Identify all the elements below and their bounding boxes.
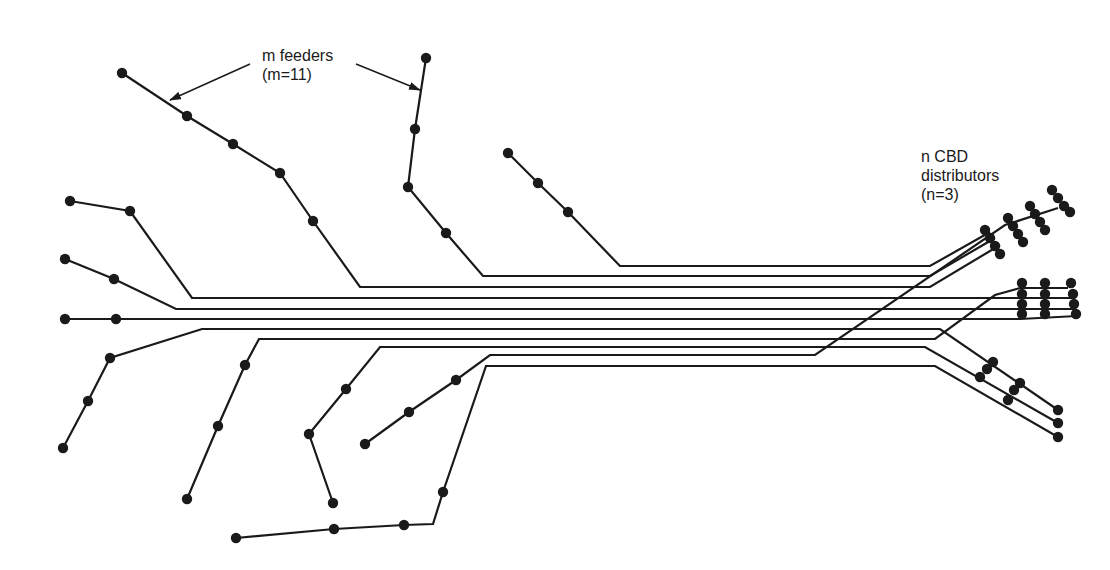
feeders-label: m feeders(m=11) bbox=[262, 46, 333, 84]
feeder-node bbox=[182, 494, 192, 504]
distributors-label-line1: n CBD bbox=[921, 148, 968, 165]
feeder-node bbox=[240, 360, 250, 370]
distributors-label-line2: distributors bbox=[921, 167, 999, 184]
feeder-node bbox=[228, 139, 238, 149]
distributor-nodes bbox=[975, 185, 1081, 442]
distributor-node-middle bbox=[1017, 289, 1027, 299]
feeder-node bbox=[308, 216, 318, 226]
distributor-node-middle bbox=[1017, 278, 1027, 288]
annotation-arrow-icon bbox=[170, 64, 250, 100]
feeder-node bbox=[421, 53, 431, 63]
annotation-arrow-icon bbox=[356, 64, 420, 90]
feeder-node bbox=[58, 443, 68, 453]
feeder-node bbox=[404, 407, 414, 417]
feeder-node bbox=[328, 498, 338, 508]
feeder-node bbox=[125, 206, 135, 216]
feeder-network-diagram bbox=[0, 0, 1110, 570]
distributor-node-upper bbox=[1018, 237, 1028, 247]
feeder-line-f1 bbox=[122, 73, 1000, 287]
feeder-node bbox=[410, 124, 420, 134]
feeder-node bbox=[111, 314, 121, 324]
feeder-line-f2 bbox=[408, 58, 995, 276]
distributor-node-upper bbox=[995, 249, 1005, 259]
feeder-node bbox=[441, 228, 451, 238]
feeder-lines bbox=[63, 58, 1077, 538]
feeders-label-line1: m feeders bbox=[262, 47, 333, 64]
feeder-node bbox=[563, 207, 573, 217]
feeder-node bbox=[231, 533, 241, 543]
distributor-node-middle bbox=[1017, 309, 1027, 319]
distributor-node-lower bbox=[982, 364, 992, 374]
distributor-node-middle bbox=[1069, 299, 1079, 309]
distributor-node-lower bbox=[1053, 432, 1063, 442]
feeder-node bbox=[105, 353, 115, 363]
feeder-node bbox=[109, 274, 119, 284]
feeder-node bbox=[329, 524, 339, 534]
feeder-node bbox=[304, 429, 314, 439]
distributor-node-upper bbox=[1065, 207, 1075, 217]
distributor-node-middle bbox=[1040, 309, 1050, 319]
feeder-node bbox=[451, 375, 461, 385]
feeder-node bbox=[341, 384, 351, 394]
feeder-line-f6 bbox=[65, 316, 1077, 319]
distributor-node-lower bbox=[1003, 395, 1013, 405]
feeder-node bbox=[275, 168, 285, 178]
feeders-label-line2: (m=11) bbox=[262, 66, 312, 83]
distributor-node-middle bbox=[1040, 278, 1050, 288]
feeder-node bbox=[503, 148, 513, 158]
feeder-node bbox=[182, 111, 192, 121]
feeder-line-f9 bbox=[309, 347, 1058, 503]
distributor-node-middle bbox=[1066, 278, 1076, 288]
distributor-node-middle bbox=[1040, 289, 1050, 299]
distributor-node-lower bbox=[975, 372, 985, 382]
distributors-label-line3: (n=3) bbox=[921, 186, 959, 203]
distributor-node-lower bbox=[1009, 385, 1019, 395]
feeder-node bbox=[60, 314, 70, 324]
distributor-node-middle bbox=[1068, 289, 1078, 299]
feeder-node bbox=[60, 254, 70, 264]
distributor-node-lower bbox=[1053, 418, 1063, 428]
feeder-node bbox=[360, 439, 370, 449]
distributor-node-upper bbox=[1040, 225, 1050, 235]
feeder-node bbox=[117, 68, 127, 78]
feeder-node bbox=[399, 520, 409, 530]
feeder-node bbox=[213, 421, 223, 431]
feeder-node bbox=[533, 178, 543, 188]
distributor-node-middle bbox=[1071, 309, 1081, 319]
distributor-node-middle bbox=[1040, 299, 1050, 309]
feeder-node bbox=[65, 196, 75, 206]
feeder-line-f3 bbox=[508, 153, 990, 266]
feeder-line-f11 bbox=[236, 366, 1058, 538]
distributors-label: n CBDdistributors(n=3) bbox=[921, 147, 999, 204]
feeder-node bbox=[83, 396, 93, 406]
distributor-node-lower bbox=[1053, 405, 1063, 415]
diagram-canvas: m feeders(m=11) n CBDdistributors(n=3) bbox=[0, 0, 1110, 570]
distributor-node-middle bbox=[1017, 299, 1027, 309]
feeder-node bbox=[438, 487, 448, 497]
feeder-node bbox=[403, 182, 413, 192]
